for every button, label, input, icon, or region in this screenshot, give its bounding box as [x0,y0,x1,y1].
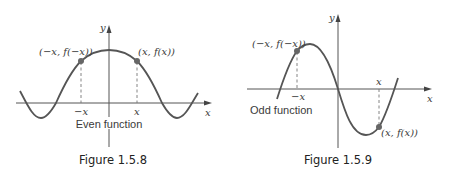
point-neg-x [78,58,84,64]
y-axis-label: y [99,22,106,33]
figure-even-function: y x (−x, f(−x)) (x, f(x)) −x x Even func… [16,22,212,167]
y-axis-arrow-icon [107,25,112,33]
x-axis-arrow-icon [204,101,212,106]
x-axis-label: x [427,93,433,104]
point-pos-x [134,58,140,64]
function-type-label: Even function [76,118,143,130]
function-type-label: Odd function [250,104,312,116]
y-axis-label: y [328,12,335,23]
tick-label-pos-x: x [134,106,140,117]
figure-odd-function: y x (−x, f(−x)) (x, f(x)) −x x Odd funct… [247,12,433,167]
point-label-pos: (x, f(x)) [138,46,175,57]
x-axis-label: x [205,107,211,118]
figure-caption: Figure 1.5.9 [304,153,372,167]
point-label-pos: (x, f(x)) [381,127,418,138]
tick-label-neg-x: −x [74,106,88,117]
x-axis-arrow-icon [424,87,432,92]
tick-label-neg-x: −x [291,91,305,102]
y-axis-arrow-icon [336,14,341,22]
tick-label-pos-x: x [376,76,382,87]
figure-caption: Figure 1.5.8 [79,153,147,167]
point-label-neg: (−x, f(−x)) [252,38,306,49]
point-label-neg: (−x, f(−x)) [39,46,93,57]
